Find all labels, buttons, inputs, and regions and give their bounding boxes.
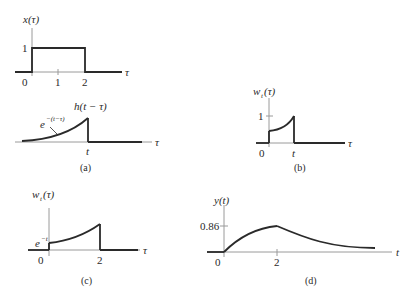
x-axis-label: τ <box>143 244 148 256</box>
x-axis-label: τ <box>155 136 160 148</box>
x-tick-0: 0 <box>22 76 28 88</box>
panel-c-plot: w t (τ) e −t 0 2 τ <box>28 188 148 266</box>
x-tick-2: 2 <box>274 256 280 268</box>
curve-annotation-arrow <box>50 127 57 134</box>
exp-label-exponent: −(t−τ) <box>46 115 65 123</box>
x-tick-2: 2 <box>82 76 88 88</box>
x-tick-t: t <box>292 147 296 159</box>
y-tick-exponent: −t <box>41 235 49 243</box>
panel-b-plot: w t (τ) 1 0 t τ <box>253 85 353 159</box>
output-rise-curve <box>224 226 277 252</box>
x-axis-label: t <box>396 246 400 258</box>
panel-a-top-plot: x(τ) 1 0 1 2 τ <box>15 13 130 88</box>
weighted-curve <box>269 116 294 131</box>
x-axis-label: τ <box>125 66 130 78</box>
x-tick-0: 0 <box>215 256 221 268</box>
x-tick-1: 1 <box>55 76 61 88</box>
y-label-base: w <box>253 85 261 97</box>
y-label-base: w <box>32 188 40 200</box>
exp-label-base: e <box>40 118 45 130</box>
caption-d: (d) <box>305 275 317 287</box>
pulse-signal <box>15 48 122 72</box>
h-title: h(t − τ) <box>74 100 107 113</box>
x-tick-0: 0 <box>259 147 265 159</box>
y-tick-label: 1 <box>22 42 28 54</box>
caption-a: (a) <box>80 162 91 174</box>
y-tick-086: 0.86 <box>200 220 220 232</box>
y-label-arg: (τ) <box>43 188 55 201</box>
caption-b: (b) <box>294 162 306 174</box>
convolution-figure: x(τ) 1 0 1 2 τ h(t − τ) e −(t−τ) t τ (a)… <box>0 0 413 298</box>
y-tick-base: e <box>35 237 40 249</box>
output-decay-curve <box>277 226 375 248</box>
x-tick-2: 2 <box>97 254 103 266</box>
panel-a-bottom-plot: h(t − τ) e −(t−τ) t τ <box>15 100 160 157</box>
x-tick-0: 0 <box>38 254 44 266</box>
caption-c: (c) <box>81 275 92 287</box>
weighted-curve <box>49 224 100 243</box>
y-axis-label: y(t) <box>213 194 230 207</box>
panel-d-plot: y(t) 0.86 0 2 t <box>200 194 400 268</box>
y-label-arg: (τ) <box>264 85 276 98</box>
x-axis-label: τ <box>348 137 353 149</box>
x-tick-t: t <box>86 145 90 157</box>
y-tick-1: 1 <box>258 110 264 122</box>
y-axis-label: x(τ) <box>22 13 39 26</box>
